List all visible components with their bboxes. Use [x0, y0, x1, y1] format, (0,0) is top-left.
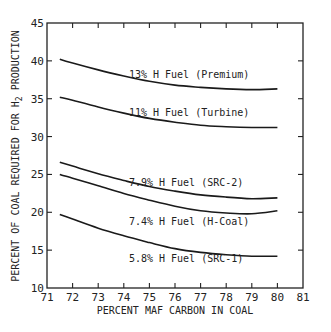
curve-label: 11% H Fuel (Turbine) [129, 107, 249, 118]
data-curves [60, 59, 278, 256]
y-tick-label: 40 [31, 55, 44, 68]
curve-label: 13% H Fuel (Premium) [129, 69, 249, 80]
y-tick-label: 35 [31, 93, 44, 106]
y-tick-label: 25 [31, 168, 44, 181]
y-tick-label: 10 [31, 282, 44, 295]
curve-label: 5.8% H Fuel (SRC-1) [129, 253, 243, 264]
y-axis-title: PERCENT OF COAL REQUIRED FOR H2 PRODUCTI… [10, 30, 24, 282]
x-tick-label: 77 [194, 291, 207, 304]
y-tick-label: 20 [31, 206, 44, 219]
x-tick-label: 81 [296, 291, 309, 304]
x-tick-label: 73 [92, 291, 105, 304]
x-tick-label: 76 [168, 291, 181, 304]
y-tick-label: 15 [31, 244, 44, 257]
x-tick-label: 80 [271, 291, 284, 304]
curve-label: 7.9% H Fuel (SRC-2) [129, 177, 243, 188]
x-tick-label: 72 [66, 291, 79, 304]
svg-text:PERCENT OF COAL REQUIRED FOR H: PERCENT OF COAL REQUIRED FOR H2 PRODUCTI… [10, 30, 24, 282]
x-tick-label: 79 [245, 291, 258, 304]
chart: 71727374757677787980811015202530354045 1… [0, 0, 331, 332]
curve-label: 7.4% H Fuel (H-Coal) [129, 216, 249, 227]
x-axis-title: PERCENT MAF CARBON IN COAL [97, 305, 254, 316]
y-tick-label: 45 [31, 17, 44, 30]
y-axis-title-part2: PRODUCTION [10, 30, 21, 96]
y-axis-title-part1: PERCENT OF COAL REQUIRED FOR H [10, 101, 21, 282]
y-tick-label: 30 [31, 131, 44, 144]
x-tick-label: 75 [143, 291, 156, 304]
x-tick-label: 74 [117, 291, 131, 304]
x-tick-label: 78 [220, 291, 233, 304]
curve-labels: 13% H Fuel (Premium)11% H Fuel (Turbine)… [129, 69, 249, 264]
